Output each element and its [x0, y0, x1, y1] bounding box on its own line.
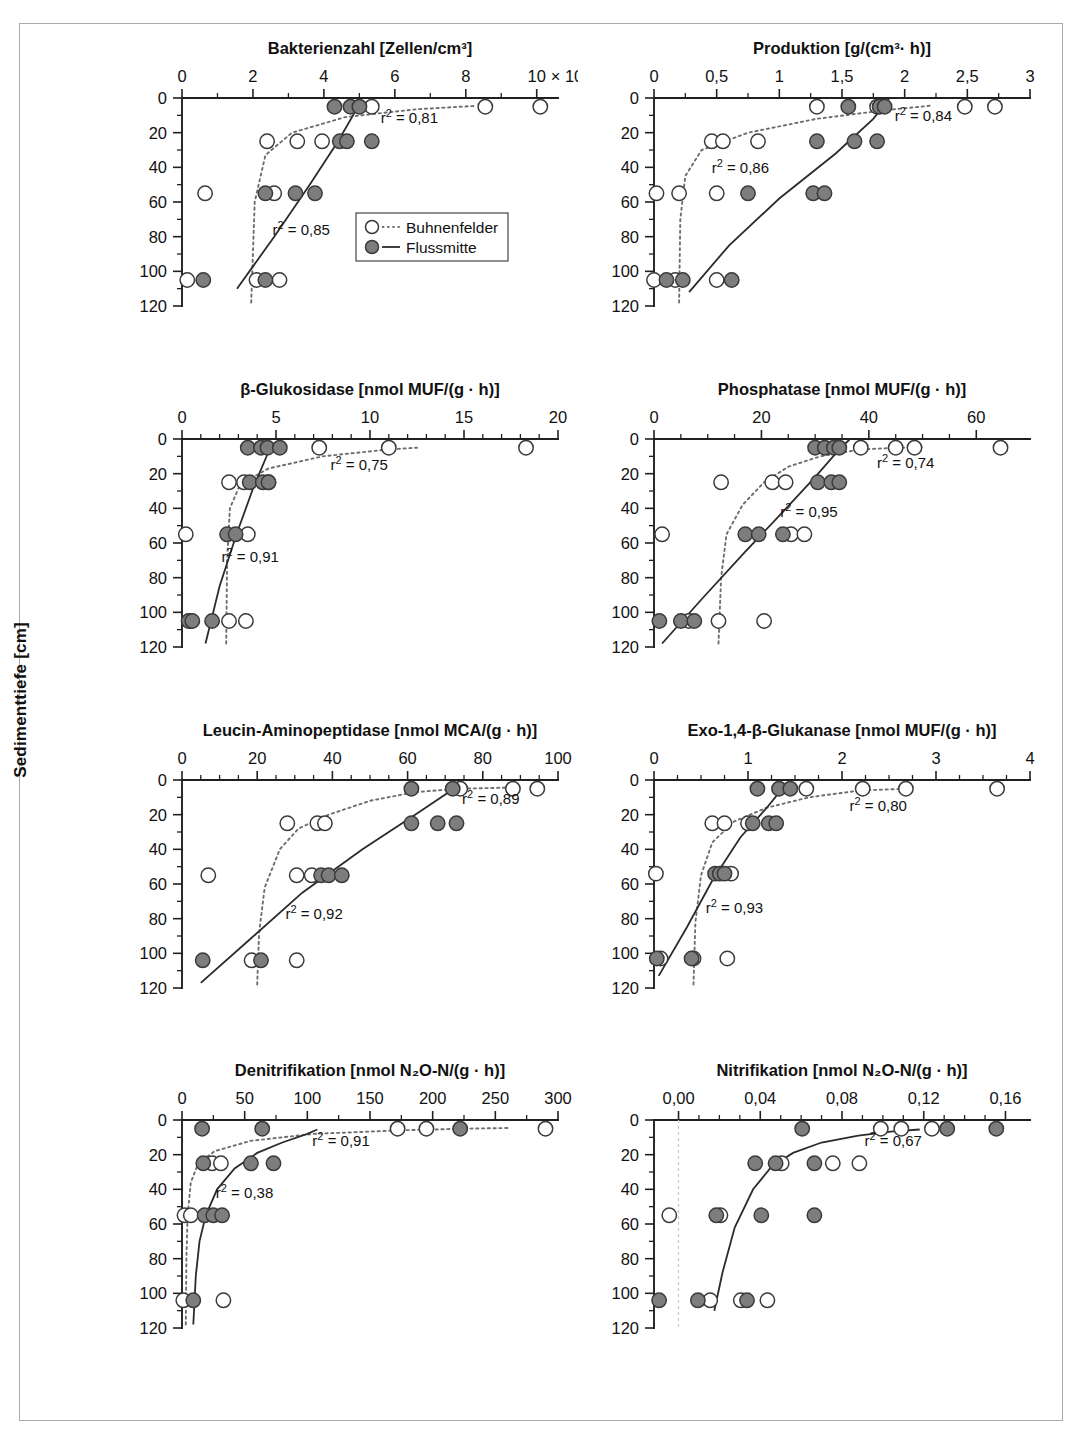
- data-point-buhnenfelder: [382, 441, 396, 455]
- data-point-buhnenfelder: [533, 100, 547, 114]
- y-tick-label: 0: [158, 1111, 167, 1129]
- data-point-flussmitte: [288, 186, 302, 200]
- data-point-flussmitte: [807, 1156, 821, 1170]
- chart-panel-1: Bakterienzahl [Zellen/cm³]0246810× 10802…: [108, 28, 578, 358]
- y-tick-label: 80: [149, 569, 167, 587]
- data-point-buhnenfelder: [290, 134, 304, 148]
- y-tick-label: 20: [621, 1146, 639, 1164]
- r-squared-label: r2 = 0,85: [272, 219, 329, 238]
- x-tick-label: 1: [743, 749, 752, 767]
- y-tick-label: 120: [611, 638, 639, 656]
- y-tick-label: 20: [149, 124, 167, 142]
- y-tick-label: 40: [149, 840, 167, 858]
- y-tick-label: 120: [611, 297, 639, 315]
- y-tick-label: 0: [630, 89, 639, 107]
- data-point-buhnenfelder: [710, 186, 724, 200]
- x-tick-label: 2: [248, 67, 257, 85]
- y-tick-label: 60: [621, 193, 639, 211]
- data-point-flussmitte: [244, 1156, 258, 1170]
- data-point-flussmitte: [215, 1208, 229, 1222]
- data-point-buhnenfelder: [717, 816, 731, 830]
- data-point-buhnenfelder: [714, 475, 728, 489]
- r-squared-label: r2 = 0,91: [312, 1130, 369, 1149]
- data-point-buhnenfelder: [672, 186, 686, 200]
- data-point-flussmitte: [817, 186, 831, 200]
- panel-title: Nitrifikation [nmol N₂O-N/(g · h)]: [716, 1061, 967, 1079]
- data-point-flussmitte: [877, 100, 891, 114]
- data-point-buhnenfelder: [222, 475, 236, 489]
- data-point-flussmitte: [650, 951, 664, 965]
- data-point-buhnenfelder: [179, 527, 193, 541]
- chart-panel-3: β-Glukosidase [nmol MUF/(g · h)]05101520…: [108, 369, 578, 699]
- r-squared-label: r2 = 0,81: [381, 107, 438, 126]
- panel-title: Leucin-Aminopeptidase [nmol MCA/(g · h)]: [203, 721, 538, 739]
- y-tick-label: 100: [139, 262, 167, 280]
- y-tick-label: 60: [149, 875, 167, 893]
- data-point-buhnenfelder: [184, 1208, 198, 1222]
- x-tick-label: 60: [398, 749, 416, 767]
- data-point-flussmitte: [741, 186, 755, 200]
- y-tick-label: 60: [149, 1215, 167, 1233]
- x-tick-label: 15: [455, 408, 473, 426]
- panel-grid: Bakterienzahl [Zellen/cm³]0246810× 10802…: [60, 28, 1060, 1398]
- y-tick-label: 40: [149, 1180, 167, 1198]
- y-tick-label: 120: [139, 979, 167, 997]
- data-point-buhnenfelder: [988, 100, 1002, 114]
- y-tick-label: 0: [630, 1111, 639, 1129]
- data-point-buhnenfelder: [765, 475, 779, 489]
- x-tick-label: 250: [482, 1089, 510, 1107]
- data-point-buhnenfelder: [290, 953, 304, 967]
- y-tick-label: 20: [621, 806, 639, 824]
- data-point-buhnenfelder: [925, 1122, 939, 1136]
- data-point-buhnenfelder: [180, 273, 194, 287]
- y-tick-label: 0: [158, 89, 167, 107]
- data-point-flussmitte: [652, 1293, 666, 1307]
- x-tick-label: 0,00: [662, 1089, 694, 1107]
- chart-panel-6: Exo-1,4-β-Glukanase [nmol MUF/(g · h)]01…: [580, 710, 1050, 1040]
- data-point-flussmitte: [750, 782, 764, 796]
- data-point-buhnenfelder: [720, 951, 734, 965]
- x-tick-label: 0: [649, 408, 658, 426]
- data-point-flussmitte: [676, 273, 690, 287]
- data-point-buhnenfelder: [538, 1122, 552, 1136]
- data-point-flussmitte: [674, 614, 688, 628]
- data-point-buhnenfelder: [390, 1122, 404, 1136]
- x-tick-label: 4: [1025, 749, 1034, 767]
- r-squared-label: r2 = 0,93: [706, 897, 763, 916]
- data-point-flussmitte: [940, 1122, 954, 1136]
- y-tick-label: 0: [630, 430, 639, 448]
- y-tick-label: 100: [611, 262, 639, 280]
- x-tick-label: 0: [177, 67, 186, 85]
- y-tick-label: 100: [139, 1284, 167, 1302]
- y-tick-label: 80: [149, 1250, 167, 1268]
- panel-title: Exo-1,4-β-Glukanase [nmol MUF/(g · h)]: [688, 721, 997, 739]
- panel-title: Phosphatase [nmol MUF/(g · h)]: [718, 380, 966, 398]
- data-point-buhnenfelder: [993, 441, 1007, 455]
- data-point-flussmitte: [841, 100, 855, 114]
- data-point-buhnenfelder: [799, 782, 813, 796]
- x-axis-exponent: × 108: [551, 66, 578, 85]
- x-tick-label: 20: [549, 408, 567, 426]
- data-point-buhnenfelder: [239, 614, 253, 628]
- x-tick-label: 8: [461, 67, 470, 85]
- data-point-flussmitte: [870, 134, 884, 148]
- data-point-buhnenfelder: [751, 134, 765, 148]
- data-point-buhnenfelder: [315, 134, 329, 148]
- data-point-flussmitte: [196, 273, 210, 287]
- x-tick-label: 40: [860, 408, 878, 426]
- data-point-flussmitte: [652, 614, 666, 628]
- y-tick-label: 60: [149, 534, 167, 552]
- data-point-buhnenfelder: [318, 816, 332, 830]
- data-point-flussmitte: [807, 1208, 821, 1222]
- y-tick-label: 80: [621, 1250, 639, 1268]
- y-tick-label: 40: [621, 158, 639, 176]
- data-point-buhnenfelder: [716, 134, 730, 148]
- data-point-buhnenfelder: [201, 868, 215, 882]
- x-tick-label: 0,12: [908, 1089, 940, 1107]
- data-point-buhnenfelder: [899, 782, 913, 796]
- x-tick-label: 40: [323, 749, 341, 767]
- data-point-buhnenfelder: [778, 475, 792, 489]
- r-squared-label: r2 = 0,80: [850, 795, 907, 814]
- r-squared-label: r2 = 0,38: [216, 1182, 273, 1201]
- data-point-buhnenfelder: [710, 273, 724, 287]
